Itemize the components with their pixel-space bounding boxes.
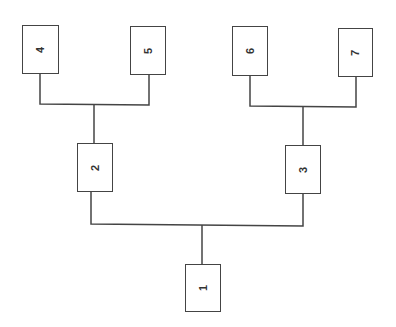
node-4: 4 (22, 25, 59, 74)
node-label: 2 (89, 164, 101, 170)
node-label: 4 (35, 46, 47, 52)
edge-4-5 (40, 74, 149, 105)
node-1: 1 (185, 264, 221, 312)
node-6: 6 (232, 26, 268, 76)
node-3: 3 (285, 145, 321, 194)
edge-6-7 (250, 76, 356, 107)
node-label: 3 (297, 166, 309, 172)
node-label: 1 (197, 285, 209, 291)
node-label: 5 (142, 47, 154, 53)
node-2: 2 (77, 143, 113, 192)
node-label: 7 (350, 49, 362, 55)
node-5: 5 (130, 26, 166, 75)
edge-2-3 (91, 192, 303, 226)
node-label: 6 (244, 48, 256, 54)
node-7: 7 (338, 28, 373, 77)
